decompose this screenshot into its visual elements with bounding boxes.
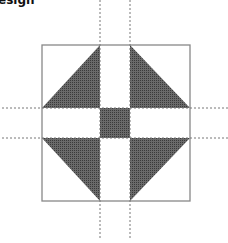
triangle-top-left: [42, 45, 100, 108]
triangle-bottom-left: [42, 138, 100, 201]
quilt-block-diagram: [0, 0, 228, 243]
center-square: [100, 108, 130, 138]
triangle-bottom-right: [130, 138, 190, 201]
triangle-top-right: [130, 45, 190, 108]
